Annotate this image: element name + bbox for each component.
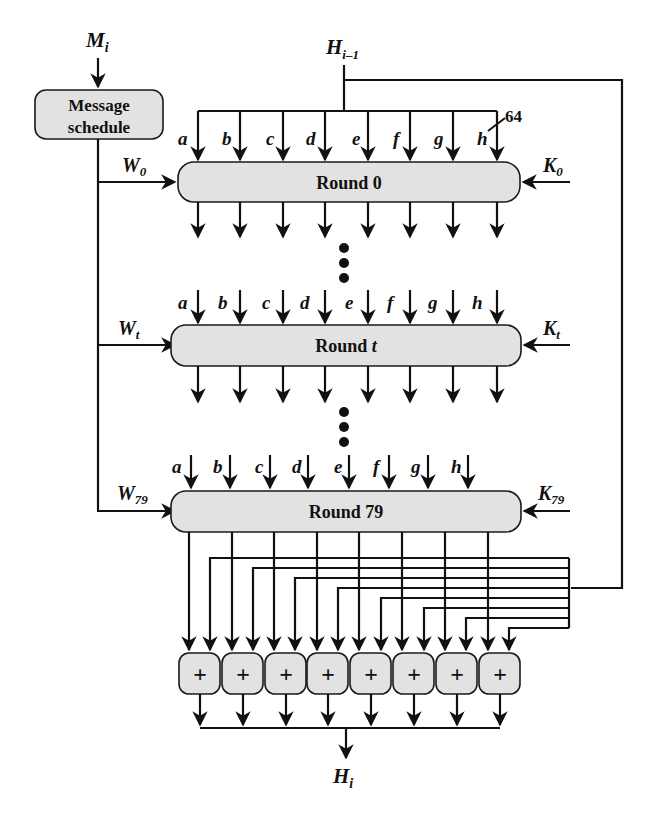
svg-text:f: f [387, 292, 395, 313]
bus-width-label: 64 [505, 107, 523, 126]
feedforward-branches [210, 558, 569, 650]
round-t-outputs [198, 366, 497, 402]
ellipsis-dots-upper [339, 243, 349, 283]
ellipsis-dots-lower [339, 407, 349, 447]
round-0-register-labels: a b c d e f g h [178, 128, 488, 149]
svg-text:c: c [262, 292, 271, 313]
svg-text:+: + [407, 661, 421, 687]
svg-text:b: b [218, 292, 228, 313]
svg-text:d: d [306, 128, 316, 149]
svg-text:e: e [345, 292, 354, 313]
svg-text:+: + [364, 661, 378, 687]
w79-label: W79 [117, 482, 148, 507]
w0-label: W0 [122, 154, 147, 179]
svg-text:d: d [300, 292, 310, 313]
kt-label: Kt [542, 317, 560, 342]
svg-text:+: + [279, 661, 293, 687]
wt-label: Wt [118, 317, 140, 342]
svg-text:+: + [236, 661, 250, 687]
svg-text:a: a [172, 456, 182, 477]
svg-text:f: f [373, 456, 381, 477]
svg-text:g: g [410, 456, 421, 477]
adder-outputs [200, 694, 500, 725]
k0-label: K0 [542, 154, 563, 179]
round-79-register-labels: a b c d e f g h [172, 456, 462, 477]
svg-text:b: b [222, 128, 232, 149]
svg-text:e: e [352, 128, 361, 149]
svg-text:f: f [393, 128, 401, 149]
svg-text:g: g [433, 128, 444, 149]
svg-text:+: + [193, 661, 207, 687]
round-t-label: Round t [315, 336, 378, 356]
svg-text:g: g [427, 292, 438, 313]
svg-text:h: h [451, 456, 462, 477]
svg-text:c: c [266, 128, 275, 149]
round-t-register-labels: a b c d e f g h [178, 292, 483, 313]
sha512-compression-diagram: Mi Message schedule W0 Wt W79 Hi–1 64 a … [0, 0, 654, 815]
message-input-label: Mi [85, 28, 109, 55]
svg-text:h: h [472, 292, 483, 313]
svg-text:h: h [477, 128, 488, 149]
svg-text:b: b [213, 456, 223, 477]
svg-text:+: + [450, 661, 464, 687]
round-0-inputs [198, 111, 497, 160]
k79-label: K79 [537, 482, 565, 507]
adder-row [179, 653, 520, 694]
svg-text:a: a [178, 292, 188, 313]
round-79-inputs [191, 455, 468, 488]
svg-text:c: c [255, 456, 264, 477]
prev-hash-label: Hi–1 [325, 35, 359, 62]
svg-text:e: e [334, 456, 343, 477]
svg-text:+: + [321, 661, 335, 687]
svg-text:+: + [493, 661, 507, 687]
svg-text:d: d [292, 456, 302, 477]
output-hash-label: Hi [332, 764, 353, 791]
message-schedule-label-line1: Message [68, 96, 130, 115]
svg-text:a: a [178, 128, 188, 149]
round-0-label: Round 0 [316, 173, 382, 193]
round-79-label: Round 79 [309, 502, 384, 522]
message-schedule-label-line2: schedule [68, 118, 131, 137]
round-0-outputs [198, 202, 497, 237]
